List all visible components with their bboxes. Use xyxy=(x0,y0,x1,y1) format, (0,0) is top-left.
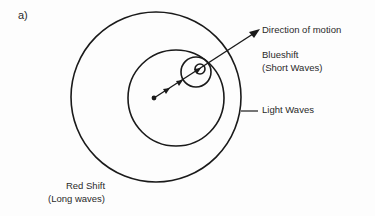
arrowhead-icon xyxy=(249,29,260,38)
redshift-subtitle: (Long waves) xyxy=(48,192,105,205)
panel-label: a) xyxy=(18,9,28,21)
light-waves-label: Light Waves xyxy=(262,103,314,116)
blueshift-subtitle: (Short Waves) xyxy=(262,61,322,74)
direction-of-motion-label: Direction of motion xyxy=(262,23,341,36)
light-waves-text: Light Waves xyxy=(262,104,314,115)
source-start-dot xyxy=(152,96,157,101)
direction-of-motion-text: Direction of motion xyxy=(262,24,341,35)
redshift-label: Red Shift (Long waves) xyxy=(48,179,105,205)
blueshift-label: Blueshift (Short Waves) xyxy=(262,48,322,74)
blueshift-title: Blueshift xyxy=(262,48,322,61)
redshift-title: Red Shift xyxy=(48,179,105,192)
